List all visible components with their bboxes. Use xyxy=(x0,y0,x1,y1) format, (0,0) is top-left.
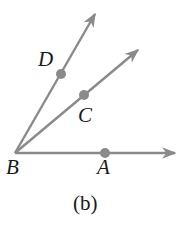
label-a: A xyxy=(95,155,110,179)
point-c xyxy=(79,90,89,100)
ray-bd xyxy=(15,14,95,153)
angle-diagram: D C B A (b) xyxy=(0,0,189,231)
caption: (b) xyxy=(73,191,98,215)
ray-bc xyxy=(15,50,138,153)
point-d xyxy=(56,69,66,79)
label-c: C xyxy=(78,103,93,127)
label-d: D xyxy=(37,47,53,71)
label-b: B xyxy=(6,155,19,179)
